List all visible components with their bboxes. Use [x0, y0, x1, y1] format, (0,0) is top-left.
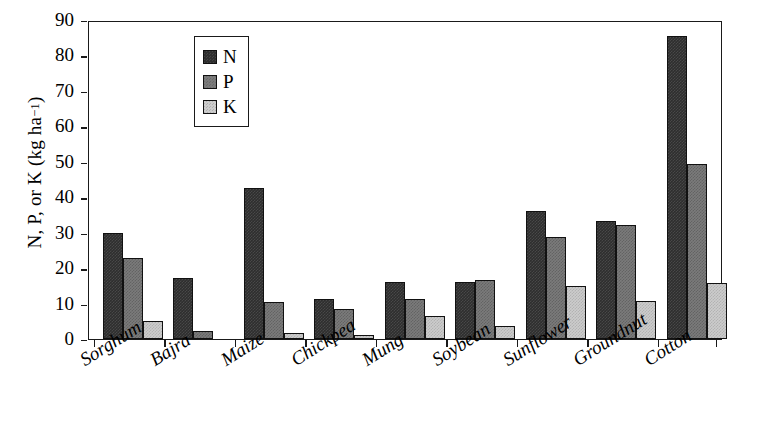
- y-tick-mark: [81, 269, 87, 270]
- y-tick-label: 30: [55, 222, 74, 244]
- y-tick-mark: [81, 234, 87, 235]
- y-tick: 90: [0, 21, 86, 22]
- y-tick-label: 10: [55, 293, 74, 315]
- legend-label: P: [223, 72, 234, 91]
- dark-gray-swatch: [203, 50, 217, 64]
- bar-sunflower-n: [526, 211, 546, 339]
- bar-soybean-k: [495, 326, 515, 339]
- y-tick: 50: [0, 163, 86, 164]
- y-tick-mark: [81, 340, 87, 341]
- y-tick: 30: [0, 234, 86, 235]
- bar-cotton-k: [707, 283, 727, 339]
- bar-bajra-p: [193, 331, 213, 339]
- y-tick: 80: [0, 56, 86, 57]
- light-gray-swatch: [203, 100, 217, 114]
- bar-cotton-n: [667, 36, 687, 339]
- legend-label: K: [223, 97, 237, 116]
- legend-item-p: P: [203, 69, 237, 94]
- y-axis-title-main: N, P, or K (kg ha: [24, 117, 46, 249]
- bar-maize-k: [284, 333, 304, 339]
- chart-figure: N, P, or K (kg ha−1) 0102030405060708090…: [0, 0, 758, 441]
- bar-maize-n: [244, 188, 264, 339]
- plot-area: [88, 21, 722, 340]
- y-tick: 20: [0, 269, 86, 270]
- bar-sorghum-k: [143, 321, 163, 339]
- bar-mung-p: [405, 299, 425, 339]
- y-tick-label: 20: [55, 257, 74, 279]
- legend-item-k: K: [203, 94, 237, 119]
- y-tick: 60: [0, 127, 86, 128]
- y-tick-label: 50: [55, 151, 74, 173]
- y-tick-mark: [81, 163, 87, 164]
- y-tick-label: 80: [55, 44, 74, 66]
- y-tick: 0: [0, 340, 86, 341]
- y-tick-label: 90: [55, 9, 74, 31]
- y-tick-mark: [81, 56, 87, 57]
- bar-chickpea-k: [354, 335, 374, 339]
- bar-maize-p: [264, 302, 284, 339]
- y-tick-mark: [81, 127, 87, 128]
- y-axis-title: N, P, or K (kg ha−1): [18, 0, 52, 345]
- y-tick-mark: [81, 305, 87, 306]
- x-tick: [716, 340, 717, 347]
- legend-item-n: N: [203, 44, 237, 69]
- bar-mung-k: [425, 316, 445, 339]
- y-tick: 70: [0, 92, 86, 93]
- y-tick: 10: [0, 305, 86, 306]
- y-tick-mark: [81, 198, 87, 199]
- y-tick-mark: [81, 92, 87, 93]
- legend: NPK: [194, 36, 249, 127]
- y-tick-label: 70: [55, 80, 74, 102]
- y-tick-label: 60: [55, 115, 74, 137]
- bar-groundnut-n: [596, 221, 616, 339]
- bar-cotton-p: [687, 164, 707, 339]
- medium-gray-swatch: [203, 75, 217, 89]
- legend-label: N: [223, 47, 237, 66]
- y-tick-label: 40: [55, 186, 74, 208]
- y-axis-title-tail: ): [24, 97, 46, 104]
- y-tick-mark: [81, 21, 87, 22]
- y-tick: 40: [0, 198, 86, 199]
- y-tick-label: 0: [65, 328, 75, 350]
